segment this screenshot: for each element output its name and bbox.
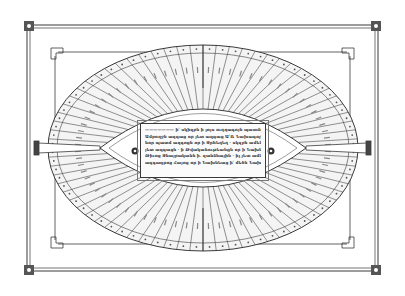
- central-text-panel: ——————— ի՛ սկիզբն ի լոյս ուղղագոյն պատմո…: [140, 123, 266, 178]
- panel-line: յետ ազգացն · ի Թվականութեանցն որ ի Նախնե…: [145, 147, 261, 154]
- panel-line: Թիւոց Ջնայրականն ի. զանձնային · իլ յետ ա…: [145, 153, 261, 160]
- panel-line: ազգագրոց Հայոց որ ի Նախնեաց ի՛ մեծն Նախա…: [145, 160, 261, 167]
- panel-line: նոր պատմ ազգոցն որ ի Ջրհեղեղ · սկզբն ամե…: [145, 140, 261, 147]
- panel-line: Ամբողջն ազգաց որ յետ ազգաց Ա՛Ռ Նախագոյն …: [145, 134, 261, 141]
- engraved-dial-figure: ——————— ի՛ սկիզբն ի լոյս ուղղագոյն պատմո…: [0, 0, 405, 296]
- panel-line: ——————— ի՛ սկիզբն ի լոյս ուղղագոյն պատմո…: [145, 127, 261, 134]
